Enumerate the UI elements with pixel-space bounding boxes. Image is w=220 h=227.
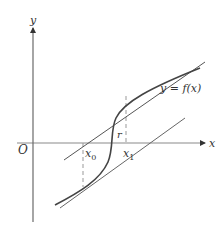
x-axis-label: x (209, 137, 216, 150)
root-label: r (117, 129, 123, 140)
function-label: y = f(x) (159, 82, 201, 95)
y-axis-label: y (29, 14, 37, 27)
tangent-line-upper (64, 62, 205, 160)
x0-label: x0 (85, 147, 96, 162)
origin-label: O (18, 143, 28, 157)
diagram-canvas: y x O y = f(x) r x0 x1 (0, 0, 220, 227)
x1-label: x1 (123, 147, 134, 162)
tangent-line-lower (60, 118, 185, 208)
